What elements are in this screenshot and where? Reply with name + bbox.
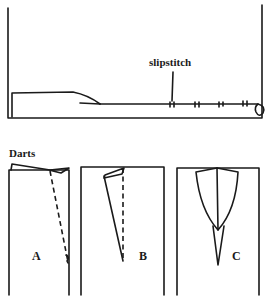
slipstitch-label: slipstitch (149, 56, 191, 68)
dart-panel-b: B (81, 167, 164, 295)
hem-diagram: slipstitch (8, 5, 264, 118)
garment-outline (8, 5, 262, 118)
sewing-diagram: slipstitch Darts A B C (0, 0, 271, 298)
dart-panel-c: C (177, 168, 259, 295)
panel-a-stitch-line (50, 171, 68, 262)
hem-fold (12, 92, 100, 117)
panel-b-fold (104, 168, 124, 178)
panel-b-dart-edge (104, 176, 123, 261)
dart-panel-a: A (9, 164, 69, 295)
panel-a-outline (9, 170, 69, 295)
darts-title: Darts (9, 147, 36, 159)
panel-a-fold (11, 164, 69, 173)
panel-a-label: A (32, 249, 41, 263)
panel-c-label: C (232, 249, 241, 263)
panel-b-label: B (139, 249, 147, 263)
panel-c-dart-point (213, 226, 224, 265)
callout-leader (172, 72, 173, 101)
